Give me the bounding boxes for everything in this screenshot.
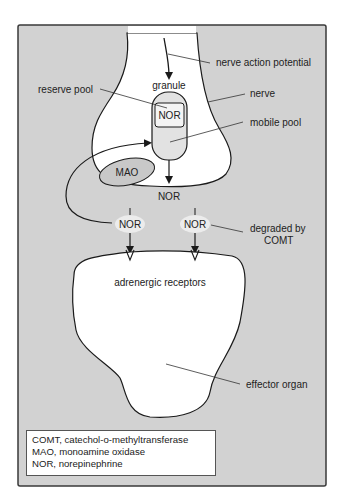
- nor-reuptake-label: NOR: [119, 219, 141, 230]
- nor-degraded-label: NOR: [184, 219, 206, 230]
- effector-organ-label: effector organ: [246, 379, 308, 390]
- degraded-by-label-2: COMT: [264, 235, 293, 246]
- legend-item-nor: NOR, norepinephrine: [32, 458, 210, 470]
- mao-label: MAO: [116, 167, 139, 178]
- legend-item-mao: MAO, monoamine oxidase: [32, 446, 210, 458]
- legend-item-comt: COMT, catechol-o-methyltransferase: [32, 434, 210, 446]
- reserve-pool-label: reserve pool: [38, 84, 93, 95]
- mobile-pool-label: mobile pool: [250, 117, 301, 128]
- nerve-action-potential-label: nerve action potential: [216, 57, 311, 68]
- granule-label: granule: [152, 80, 186, 91]
- nerve-label: nerve: [250, 88, 275, 99]
- nor-granule-label: NOR: [158, 110, 180, 121]
- nor-released-label: NOR: [158, 191, 180, 202]
- nerve-top-gap: [128, 26, 196, 33]
- abbreviation-legend: COMT, catechol-o-methyltransferase MAO, …: [26, 430, 216, 476]
- degraded-by-label-1: degraded by: [250, 223, 306, 234]
- adrenergic-diagram: NOR granule MAO NOR NOR NOR adrenergic r…: [0, 0, 344, 498]
- adrenergic-receptors-label: adrenergic receptors: [114, 277, 206, 288]
